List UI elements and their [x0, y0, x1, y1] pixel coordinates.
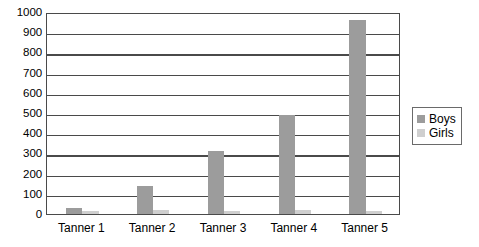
bar-girls-tanner-5 — [366, 211, 382, 214]
x-tick-label: Tanner 2 — [117, 221, 188, 235]
bar-chart: 01002003004005006007008009001000 Tanner … — [0, 0, 479, 247]
legend-item-boys: Boys — [417, 112, 456, 126]
y-tick-label: 1000 — [0, 7, 42, 18]
bar-boys-tanner-3 — [208, 151, 224, 214]
bar-boys-tanner-2 — [137, 186, 153, 214]
legend-label-boys: Boys — [429, 113, 456, 126]
y-tick-label: 400 — [0, 128, 42, 139]
bar-group — [279, 14, 312, 214]
y-axis: 01002003004005006007008009001000 — [0, 0, 42, 247]
bar-group — [66, 14, 99, 214]
y-tick-label: 300 — [0, 148, 42, 159]
bar-boys-tanner-4 — [279, 115, 295, 214]
x-tick-label: Tanner 4 — [258, 221, 329, 235]
x-tick-label: Tanner 3 — [188, 221, 259, 235]
y-tick-label: 700 — [0, 68, 42, 79]
y-tick-label: 500 — [0, 108, 42, 119]
legend-label-girls: Girls — [429, 127, 454, 140]
y-tick-label: 900 — [0, 27, 42, 38]
bar-boys-tanner-5 — [349, 20, 365, 214]
bar-girls-tanner-3 — [224, 211, 240, 214]
x-tick-label: Tanner 5 — [329, 221, 400, 235]
x-tick-label: Tanner 1 — [46, 221, 117, 235]
bar-group — [349, 14, 382, 214]
bar-girls-tanner-1 — [82, 211, 98, 214]
plot-area — [46, 13, 400, 215]
y-tick-label: 0 — [0, 209, 42, 220]
chart-legend: Boys Girls — [412, 107, 462, 145]
bar-girls-tanner-4 — [295, 210, 311, 214]
bars-layer — [47, 14, 399, 214]
x-axis: Tanner 1Tanner 2Tanner 3Tanner 4Tanner 5 — [46, 221, 400, 243]
y-tick-label: 200 — [0, 169, 42, 180]
y-tick-label: 100 — [0, 189, 42, 200]
legend-swatch-boys-icon — [417, 115, 425, 123]
y-tick-label: 600 — [0, 88, 42, 99]
bar-group — [208, 14, 241, 214]
legend-item-girls: Girls — [417, 126, 456, 140]
bar-group — [137, 14, 170, 214]
y-tick-label: 800 — [0, 47, 42, 58]
legend-swatch-girls-icon — [417, 129, 425, 137]
bar-girls-tanner-2 — [153, 210, 169, 214]
bar-boys-tanner-1 — [66, 208, 82, 214]
